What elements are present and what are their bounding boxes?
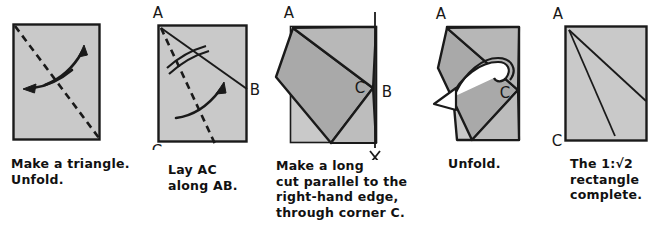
corner-label-a: A (153, 4, 164, 22)
paper-rectangle-result (566, 27, 647, 141)
corner-label-c: C (152, 142, 162, 150)
panel-5-caption: The 1:√2 rectangle complete. (570, 156, 663, 203)
corner-label-b: B (250, 81, 260, 99)
origami-instruction-figure: Make a triangle. Unfold. A B C Lay AC al… (0, 0, 663, 228)
paper-square (159, 26, 247, 142)
panel-unfold: A C Unfold. (426, 0, 543, 228)
corner-label-a: A (553, 5, 564, 23)
corner-label-a: A (284, 4, 295, 22)
corner-label-a: A (436, 5, 447, 23)
corner-label-c: C (552, 132, 562, 150)
panel-rectangle-complete: A C The 1:√2 rectangle complete. (543, 0, 663, 228)
panel-2-caption: Lay AC along AB. (168, 162, 278, 193)
panel-5-diagram: A C (543, 0, 663, 150)
panel-make-a-triangle: Make a triangle. Unfold. (0, 0, 148, 228)
paper-square (14, 25, 100, 140)
panel-lay-ac-along-ab: A B C Lay AC along AB. (148, 0, 274, 228)
panel-2-diagram: A B C (148, 0, 274, 150)
panel-1-caption: Make a triangle. Unfold. (11, 156, 147, 187)
panel-1-diagram (0, 0, 148, 150)
corner-label-b: B (382, 83, 392, 101)
panel-4-caption: Unfold. (448, 156, 548, 172)
panel-4-diagram: A C (426, 0, 543, 150)
unfold-arrow-head (434, 88, 456, 110)
panel-3-caption: Make a long cut parallel to the right-ha… (276, 158, 428, 220)
panel-make-a-long-cut: A B C Make a long cut parallel to the ri… (274, 0, 426, 228)
panel-3-diagram: A B C (274, 0, 426, 160)
corner-label-c: C (500, 84, 510, 102)
corner-label-c: C (355, 79, 365, 97)
